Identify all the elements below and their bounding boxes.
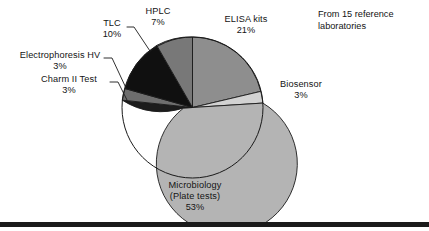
pie-label-microbiology-sub: (Plate tests) — [140, 191, 250, 202]
pie-chart-figure: HPLC 7% TLC 10% Electrophoresis HV 3% Ch… — [0, 0, 429, 231]
pie-label-tlc-pct: 10% — [90, 29, 134, 40]
pie-label-biosensor-pct: 3% — [268, 90, 334, 101]
pie-label-hplc: HPLC 7% — [131, 6, 185, 28]
pie-label-hplc-pct: 7% — [131, 17, 185, 28]
pie-label-microbiology-name: Microbiology — [169, 180, 222, 190]
pie-label-electrophoresis-hv-pct: 3% — [8, 61, 112, 72]
pie-label-tlc-name: TLC — [103, 18, 121, 28]
pie-label-microbiology-pct: 53% — [140, 202, 250, 213]
bottom-divider-shadow — [0, 227, 429, 231]
pie-label-elisa-kits: ELISA kits 21% — [210, 14, 282, 36]
pie-label-elisa-kits-name: ELISA kits — [225, 14, 268, 24]
pie-label-charm-ii-test-pct: 3% — [22, 85, 116, 96]
pie-label-microbiology: Microbiology (Plate tests) 53% — [140, 180, 250, 214]
pie-label-charm-ii-test-name: Charm II Test — [41, 74, 97, 84]
pie-label-biosensor: Biosensor 3% — [268, 79, 334, 101]
pie-label-electrophoresis-hv: Electrophoresis HV 3% — [8, 50, 112, 72]
pie-label-electrophoresis-hv-name: Electrophoresis HV — [20, 50, 100, 60]
figure-note-line1: From 15 reference — [318, 9, 394, 19]
pie-label-biosensor-name: Biosensor — [280, 79, 322, 89]
pie-label-elisa-kits-pct: 21% — [210, 25, 282, 36]
figure-note-line2: laboratories — [318, 21, 366, 31]
pie-label-tlc: TLC 10% — [90, 18, 134, 40]
figure-note: From 15 reference laboratories — [318, 9, 426, 32]
pie-label-hplc-name: HPLC — [146, 6, 171, 16]
pie-label-charm-ii-test: Charm II Test 3% — [22, 74, 116, 96]
